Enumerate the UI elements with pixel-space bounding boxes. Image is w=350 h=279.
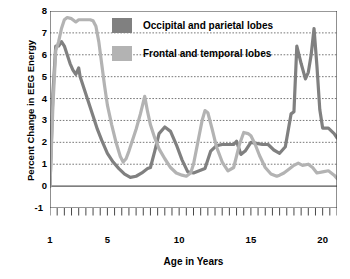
x-tick-10: 10 xyxy=(167,234,191,245)
legend-swatch-occipital-parietal xyxy=(112,18,132,33)
legend-swatch-frontal-temporal xyxy=(112,46,132,61)
chart-container: Percent Change in EEG Energy Age in Year… xyxy=(0,0,350,279)
series-lines xyxy=(50,18,337,187)
y-tick-1: 1 xyxy=(31,159,47,169)
x-tick-20: 20 xyxy=(311,234,335,245)
y-tick-7: 7 xyxy=(31,28,47,38)
legend-label-occipital-parietal: Occipital and parietal lobes xyxy=(143,20,273,31)
y-tick-5: 5 xyxy=(31,72,47,82)
y-tick-3: 3 xyxy=(31,115,47,125)
legend-label-frontal-temporal: Frontal and temporal lobes xyxy=(143,48,271,59)
y-tick-2: 2 xyxy=(31,137,47,147)
x-tick-5: 5 xyxy=(95,234,119,245)
y-tick-4: 4 xyxy=(31,94,47,104)
y-tick-8: 8 xyxy=(31,6,47,16)
x-tick-15: 15 xyxy=(239,234,263,245)
plot-area xyxy=(50,11,337,208)
legend-item-frontal-temporal: Frontal and temporal lobes xyxy=(112,46,271,61)
y-tick-6: 6 xyxy=(31,50,47,60)
x-axis-ticks xyxy=(50,208,337,232)
y-tick-0: 0 xyxy=(31,181,47,191)
x-tick-1: 1 xyxy=(38,234,62,245)
x-axis-title: Age in Years xyxy=(50,256,337,267)
y-tick--1: -1 xyxy=(27,203,43,213)
legend-item-occipital-parietal: Occipital and parietal lobes xyxy=(112,18,273,33)
